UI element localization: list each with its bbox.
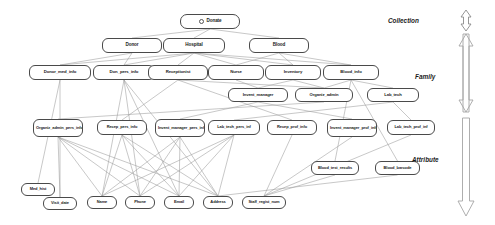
collection-arrow-icon [461,10,471,31]
level-label-attribute: Attribute [412,156,439,163]
level-arrow-layer [0,0,495,225]
level-label-collection: Collection [388,17,419,24]
level-label-family: Family [415,73,435,80]
attribute-down-arrow-icon [458,118,474,216]
diagram-canvas: DonateDonorHospitalBloodDonor_med_infoDo… [0,0,495,225]
